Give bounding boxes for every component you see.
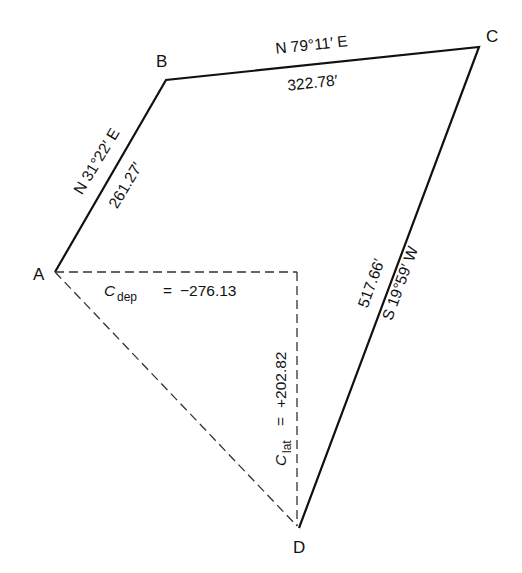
- edge-ab-length: 261.27′: [105, 159, 146, 211]
- vertex-label-c: C: [486, 27, 498, 46]
- edge-cd-bearing: S 19°59′ W: [379, 244, 421, 323]
- traverse-diagram: A B C D N 31°22′ E 261.27′ N 79°11′ E 32…: [0, 0, 522, 573]
- vertex-label-b: B: [156, 52, 167, 71]
- traverse-solid-lines: [55, 47, 479, 528]
- edge-bc-bearing: N 79°11′ E: [274, 32, 348, 56]
- closing-dashed-line: [55, 272, 297, 526]
- svg-text:+202.82: +202.82: [272, 352, 289, 408]
- vertex-label-a: A: [33, 265, 45, 284]
- svg-text:−276.13: −276.13: [180, 282, 236, 299]
- latitude-closure-label: C lat = +202.82: [272, 352, 294, 466]
- svg-text:C: C: [104, 282, 116, 299]
- edge-cd-length: 517.66′: [354, 256, 387, 309]
- departure-closure-label: C dep = −276.13: [104, 282, 236, 304]
- edge-bc-length: 322.78′: [287, 71, 339, 93]
- svg-text:lat: lat: [280, 440, 294, 453]
- svg-text:dep: dep: [117, 290, 137, 304]
- vertex-label-d: D: [293, 538, 305, 557]
- svg-text:C: C: [272, 454, 289, 466]
- svg-text:=: =: [272, 417, 289, 426]
- svg-text:=: =: [163, 282, 172, 299]
